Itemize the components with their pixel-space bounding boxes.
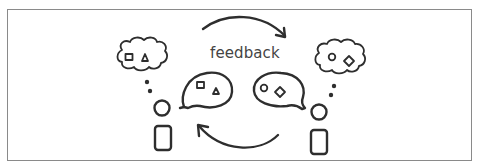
circle-icon — [261, 85, 268, 92]
circle-icon — [329, 54, 336, 61]
square-icon — [126, 54, 133, 60]
left-speech-bubble-icon — [180, 73, 232, 108]
left-thought-cloud-icon — [118, 38, 168, 71]
right-thought-cloud-icon — [315, 40, 365, 74]
square-icon — [197, 82, 204, 88]
feedback-diagram — [0, 0, 481, 167]
right-person-icon — [311, 105, 327, 155]
diamond-icon — [275, 87, 285, 97]
top-arrow-icon — [203, 17, 285, 37]
triangle-icon — [213, 88, 219, 94]
diamond-icon — [344, 56, 354, 66]
bottom-arrow-icon — [198, 125, 278, 148]
right-speech-bubble-icon — [254, 73, 305, 109]
left-thought-dots — [145, 80, 152, 93]
feedback-label: feedback — [210, 44, 280, 62]
triangle-icon — [142, 54, 148, 61]
right-thought-dots — [329, 84, 336, 97]
left-person-icon — [155, 101, 172, 151]
